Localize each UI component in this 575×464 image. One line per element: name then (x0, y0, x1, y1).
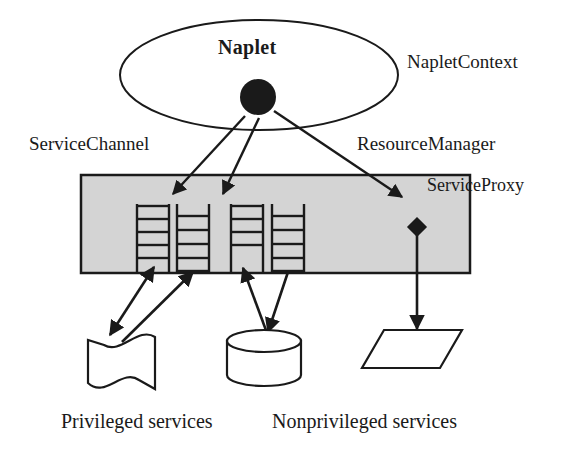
document-shape (88, 334, 155, 389)
resource-manager-label: ResourceManager (357, 133, 495, 155)
naplet-label: Naplet (218, 36, 276, 59)
database-cylinder-shape (227, 330, 301, 386)
privileged-services-label: Privileged services (61, 410, 213, 433)
service-channel-label: ServiceChannel (29, 133, 149, 155)
service-proxy-label: ServiceProxy (427, 175, 524, 196)
arrow-ladder2-to-document (122, 272, 193, 342)
naplet-context-label: NapletContext (407, 51, 518, 73)
parallelogram-shape (362, 330, 462, 368)
naplet-node (240, 79, 276, 115)
arrow-ladder1-to-document (110, 267, 154, 335)
arrow-ladder3-to-cylinder (243, 268, 267, 333)
nonprivileged-services-label: Nonprivileged services (272, 410, 457, 433)
arrow-ladder4-to-cylinder (268, 272, 288, 332)
diagram-canvas: Naplet NapletContext ServiceChannel Reso… (0, 0, 575, 464)
